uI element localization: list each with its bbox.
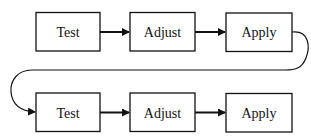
step-label: Apply: [242, 106, 277, 121]
step-label: Adjust: [144, 106, 181, 121]
step-adjust-1: Adjust: [130, 13, 195, 52]
step-apply-2: Apply: [226, 94, 292, 133]
step-test-1: Test: [36, 13, 100, 52]
step-label: Adjust: [144, 25, 181, 40]
step-label: Apply: [242, 25, 277, 40]
flow-diagram: Test Adjust Apply Test Adjust Apply: [0, 0, 311, 140]
step-apply-1: Apply: [226, 13, 292, 52]
step-adjust-2: Adjust: [130, 93, 195, 132]
step-label: Test: [56, 106, 79, 121]
step-test-2: Test: [36, 93, 100, 132]
row-2: Test Adjust Apply: [36, 93, 292, 132]
step-label: Test: [56, 25, 79, 40]
row-1: Test Adjust Apply: [36, 13, 292, 52]
